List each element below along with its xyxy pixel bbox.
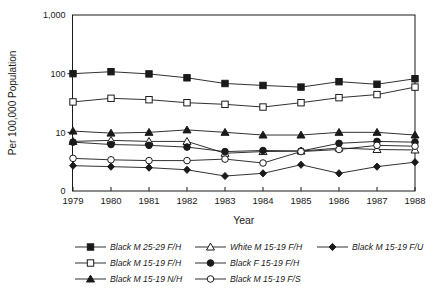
- data-point-black-m-15-19-f-s: [412, 143, 419, 150]
- legend-label: Black F 15-19 F/H: [230, 258, 300, 268]
- data-point-black-m-25-29-f-h: [108, 69, 114, 75]
- legend-label: Black M 25-29 F/H: [110, 242, 182, 252]
- legend-item-black-f-15-19-f-h: Black F 15-19 F/H: [195, 258, 300, 268]
- data-point-black-m-15-19-f-s: [70, 155, 77, 162]
- legend-marker-circle-filled: [207, 260, 214, 267]
- series-markers-black-m-15-19-f-h: [70, 84, 418, 110]
- data-point-black-m-25-29-f-h: [260, 82, 266, 88]
- x-tick-label: 1982: [176, 195, 197, 206]
- data-point-black-m-15-19-f-h: [108, 95, 114, 101]
- statistical-figure: 1,00010010019791980198119821983198419851…: [0, 0, 442, 297]
- legend-item-black-m-25-29-f-h: Black M 25-29 F/H: [75, 242, 182, 252]
- legend-marker-circle-open: [207, 276, 214, 283]
- series-markers-black-m-25-29-f-h: [70, 69, 418, 91]
- series-line-black-m-15-19-n-h: [73, 130, 415, 135]
- legend-item-white-m-15-19-f-h: White M 15-19 F/H: [195, 242, 303, 252]
- data-point-black-f-15-19-f-h: [336, 140, 343, 147]
- data-point-black-m-15-19-f-s: [146, 157, 153, 164]
- y-axis-title: Per 100,000 Population: [7, 51, 18, 156]
- data-point-black-m-15-19-f-u: [184, 166, 191, 173]
- data-point-black-m-25-29-f-h: [298, 84, 304, 90]
- data-point-black-f-15-19-f-h: [146, 142, 153, 149]
- data-point-black-m-15-19-f-h: [412, 84, 418, 90]
- y-tick-label: 1,000: [43, 10, 66, 20]
- data-point-black-m-15-19-f-s: [336, 146, 343, 153]
- data-point-black-m-15-19-f-h: [260, 104, 266, 110]
- data-point-black-m-15-19-f-h: [184, 99, 190, 105]
- data-point-black-m-15-19-f-h: [70, 99, 76, 105]
- legend: Black M 25-29 F/HBlack M 15-19 F/HBlack …: [75, 242, 424, 284]
- legend-item-black-m-15-19-f-u: Black M 15-19 F/U: [317, 242, 424, 252]
- data-point-black-f-15-19-f-h: [222, 148, 229, 155]
- data-point-black-m-15-19-f-s: [374, 142, 381, 149]
- data-point-black-m-15-19-f-s: [298, 148, 305, 155]
- data-point-black-m-15-19-f-u: [412, 159, 419, 166]
- x-tick-label: 1986: [328, 195, 349, 206]
- y-tick-label: 10: [55, 128, 65, 138]
- series-markers-black-m-15-19-f-u: [70, 159, 419, 180]
- series-markers-black-m-15-19-f-s: [70, 142, 419, 166]
- series-black-m-15-19-f-u: [73, 162, 415, 176]
- data-point-black-m-15-19-f-h: [222, 101, 228, 107]
- legend-label: Black M 15-19 F/S: [230, 274, 301, 284]
- data-point-black-m-15-19-f-u: [222, 172, 229, 179]
- x-tick-label: 1983: [214, 195, 235, 206]
- data-point-black-m-15-19-f-h: [336, 94, 342, 100]
- series-black-m-15-19-f-h: [73, 87, 415, 107]
- series-line-black-m-15-19-f-s: [73, 145, 415, 163]
- series-black-m-15-19-f-s: [73, 145, 415, 163]
- data-point-black-f-15-19-f-h: [108, 141, 115, 148]
- data-point-black-m-25-29-f-h: [184, 75, 190, 81]
- legend-label: White M 15-19 F/H: [230, 242, 303, 252]
- data-point-black-m-25-29-f-h: [222, 80, 228, 86]
- series-line-black-m-25-29-f-h: [73, 72, 415, 87]
- data-point-black-m-15-19-f-u: [336, 170, 343, 177]
- legend-marker-diamond-filled: [329, 243, 336, 250]
- legend-item-black-m-15-19-n-h: Black M 15-19 N/H: [75, 274, 183, 284]
- series-line-black-m-15-19-f-u: [73, 162, 415, 176]
- data-point-black-m-15-19-f-s: [260, 160, 267, 167]
- data-point-black-m-15-19-f-u: [108, 163, 115, 170]
- legend-marker-square-filled: [87, 244, 93, 250]
- data-point-black-f-15-19-f-h: [184, 144, 191, 151]
- data-point-black-m-25-29-f-h: [374, 81, 380, 87]
- data-point-black-m-15-19-f-s: [222, 156, 229, 163]
- y-tick-label: 100: [50, 69, 65, 79]
- data-point-black-f-15-19-f-h: [260, 147, 267, 154]
- data-point-black-m-15-19-f-h: [298, 99, 304, 105]
- data-point-black-f-15-19-f-h: [70, 139, 77, 146]
- series-black-m-15-19-n-h: [73, 130, 415, 135]
- legend-label: Black M 15-19 N/H: [110, 274, 183, 284]
- chart: 1,00010010019791980198119821983198419851…: [0, 0, 442, 297]
- plot-border: [73, 15, 416, 191]
- data-point-black-m-15-19-f-u: [146, 164, 153, 171]
- x-tick-label: 1987: [366, 195, 387, 206]
- data-point-black-m-15-19-n-h: [69, 127, 77, 134]
- legend-item-black-m-15-19-f-h: Black M 15-19 F/H: [75, 258, 182, 268]
- data-point-black-m-25-29-f-h: [336, 78, 342, 84]
- x-tick-label: 1979: [62, 195, 83, 206]
- x-axis-title: Year: [233, 214, 255, 226]
- legend-marker-square-open: [87, 260, 93, 266]
- data-point-black-m-15-19-f-s: [108, 157, 115, 164]
- x-tick-label: 1988: [404, 195, 425, 206]
- data-point-black-m-15-19-f-h: [374, 91, 380, 97]
- legend-label: Black M 15-19 F/U: [352, 242, 424, 252]
- data-point-black-m-15-19-f-u: [70, 162, 77, 169]
- x-tick-label: 1980: [100, 195, 121, 206]
- data-point-black-m-25-29-f-h: [412, 76, 418, 82]
- x-tick-label: 1984: [252, 195, 273, 206]
- data-point-black-m-15-19-f-u: [374, 163, 381, 170]
- legend-label: Black M 15-19 F/H: [110, 258, 182, 268]
- data-point-black-m-15-19-n-h: [183, 126, 191, 133]
- series-black-m-25-29-f-h: [73, 72, 415, 87]
- x-tick-label: 1985: [290, 195, 311, 206]
- data-point-black-m-15-19-f-u: [298, 161, 305, 168]
- data-point-black-m-15-19-f-h: [146, 96, 152, 102]
- data-point-black-m-25-29-f-h: [70, 70, 76, 76]
- data-point-black-m-25-29-f-h: [146, 71, 152, 77]
- x-tick-label: 1981: [138, 195, 159, 206]
- legend-item-black-m-15-19-f-s: Black M 15-19 F/S: [195, 274, 301, 284]
- data-point-black-m-15-19-f-s: [184, 157, 191, 164]
- data-point-black-m-15-19-f-u: [260, 170, 267, 177]
